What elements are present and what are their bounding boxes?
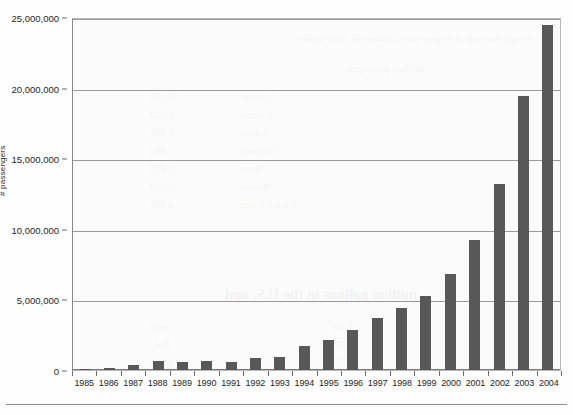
x-axis-tick-mark	[365, 371, 366, 376]
bar-slot	[536, 19, 560, 370]
x-axis-tick-mark	[219, 371, 220, 376]
y-axis-tick-label: 20,000,000	[11, 83, 59, 94]
bar-1987	[128, 365, 139, 370]
x-axis-tick-label: 1997	[365, 378, 389, 388]
bar-2000	[445, 274, 456, 370]
x-axis-tick-label: 2004	[537, 378, 561, 388]
bar-slot	[146, 19, 170, 370]
x-axis-tick-label: 1996	[341, 378, 365, 388]
bar-1997	[372, 318, 383, 370]
bar-slot	[511, 19, 535, 370]
page-top-crop	[0, 0, 573, 9]
bar-slot	[122, 19, 146, 370]
x-axis-tick-label: 1998	[390, 378, 414, 388]
bar-slot	[487, 19, 511, 370]
x-axis-tick-label: 2002	[488, 378, 512, 388]
y-axis-ticks: 05,000,00010,000,00015,000,00020,000,000…	[0, 18, 67, 371]
bar-1986	[104, 368, 115, 370]
x-axis-tick-mark	[414, 371, 415, 376]
bar-1999	[420, 296, 431, 370]
y-axis-tick-mark	[62, 159, 67, 160]
x-axis-tick-mark	[145, 371, 146, 376]
bar-2004	[542, 25, 553, 370]
bar-slot	[463, 19, 487, 370]
bar-slot	[170, 19, 194, 370]
x-axis-tick-mark	[268, 371, 269, 376]
x-axis-tick-label: 2001	[463, 378, 487, 388]
x-axis-tick-label: 1994	[292, 378, 316, 388]
bar-slot	[341, 19, 365, 370]
y-axis-tick-mark	[62, 229, 67, 230]
bar-slot	[438, 19, 462, 370]
bar-slot	[292, 19, 316, 370]
bar-slot	[414, 19, 438, 370]
x-axis-tick-label: 1995	[317, 378, 341, 388]
page-bottom-rule	[6, 404, 567, 405]
chart-page: the right-hand side of the page shows ta…	[0, 0, 573, 415]
x-axis-tick-mark	[439, 371, 440, 376]
x-axis-tick-mark	[317, 371, 318, 376]
x-axis-tick-label: 1989	[170, 378, 194, 388]
plot-area	[72, 18, 561, 371]
bar-1998	[396, 308, 407, 370]
x-axis-tick-mark	[243, 371, 244, 376]
bar-1992	[250, 358, 261, 370]
x-axis-tick-mark	[463, 371, 464, 376]
x-axis-tick-mark	[96, 371, 97, 376]
bar-slot	[243, 19, 267, 370]
x-axis-tick-label: 1999	[414, 378, 438, 388]
bar-1988	[153, 361, 164, 370]
y-axis-tick-mark	[62, 371, 67, 372]
bar-1990	[201, 361, 212, 370]
bar-1996	[347, 330, 358, 370]
x-axis-tick-mark	[341, 371, 342, 376]
bar-1994	[299, 346, 310, 370]
x-axis-tick-mark	[194, 371, 195, 376]
bar-1985	[80, 369, 91, 370]
bar-2002	[494, 184, 505, 370]
bar-1993	[274, 357, 285, 370]
x-axis-tick-label: 1988	[145, 378, 169, 388]
bar-slot	[316, 19, 340, 370]
y-axis-tick-label: 15,000,000	[11, 154, 59, 165]
x-axis-labels: 1985198619871988198919901991199219931994…	[72, 378, 561, 388]
x-axis-tick-label: 1993	[268, 378, 292, 388]
bar-1995	[323, 340, 334, 370]
y-axis-tick-label: 0	[54, 366, 59, 377]
x-axis-tick-mark	[512, 371, 513, 376]
y-axis-tick-label: 25,000,000	[11, 13, 59, 24]
y-axis-tick-label: 10,000,000	[11, 224, 59, 235]
x-axis-tick-label: 2000	[439, 378, 463, 388]
bar-2001	[469, 240, 480, 370]
x-axis-tick-mark	[170, 371, 171, 376]
y-axis-tick-mark	[62, 300, 67, 301]
bar-slot	[97, 19, 121, 370]
x-axis-tick-label: 1986	[96, 378, 120, 388]
bar-slot	[389, 19, 413, 370]
x-axis-tick-label: 1985	[72, 378, 96, 388]
bar-series	[73, 19, 560, 370]
bar-slot	[73, 19, 97, 370]
bar-slot	[365, 19, 389, 370]
bar-slot	[268, 19, 292, 370]
x-axis-tick-mark	[72, 371, 73, 376]
bar-1991	[226, 362, 237, 370]
x-axis-tick-mark	[561, 371, 562, 376]
x-axis-tick-label: 2003	[512, 378, 536, 388]
x-axis-tick-label: 1991	[219, 378, 243, 388]
x-axis-tick-mark	[292, 371, 293, 376]
bar-slot	[195, 19, 219, 370]
bar-slot	[219, 19, 243, 370]
x-axis-ticks	[72, 371, 561, 377]
bar-1989	[177, 362, 188, 370]
x-axis-tick-mark	[488, 371, 489, 376]
x-axis-tick-mark	[390, 371, 391, 376]
x-axis-tick-label: 1992	[243, 378, 267, 388]
y-axis-tick-mark	[62, 18, 67, 19]
x-axis-tick-label: 1987	[121, 378, 145, 388]
x-axis-tick-mark	[121, 371, 122, 376]
y-axis-tick-mark	[62, 88, 67, 89]
bar-2003	[518, 96, 529, 370]
x-axis-tick-mark	[537, 371, 538, 376]
x-axis-tick-label: 1990	[194, 378, 218, 388]
